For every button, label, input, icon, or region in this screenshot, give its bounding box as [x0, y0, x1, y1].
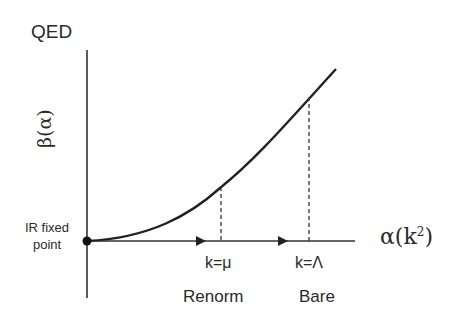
beta-function-plot [0, 0, 465, 330]
flow-arrow-icon [196, 236, 206, 246]
y-axis-label: β(α) [33, 109, 55, 148]
diagram-title: QED [31, 21, 72, 43]
bare-tick-label: k=Λ [295, 254, 323, 272]
x-axis-label-close: ) [424, 224, 433, 249]
ir-fixed-point-dot [83, 237, 92, 246]
origin-label-line1: IR fixed [25, 219, 69, 236]
bare-label: Bare [299, 287, 335, 307]
beta-curve [87, 69, 336, 241]
renorm-tick-label: k=μ [205, 254, 232, 272]
origin-label: IR fixed point [25, 219, 69, 253]
x-axis-label: α(k2) [380, 224, 433, 249]
flow-arrow-icon [278, 236, 288, 246]
x-axis-label-base: α(k [380, 224, 417, 249]
renorm-label: Renorm [183, 287, 243, 307]
origin-label-line2: point [25, 236, 69, 253]
